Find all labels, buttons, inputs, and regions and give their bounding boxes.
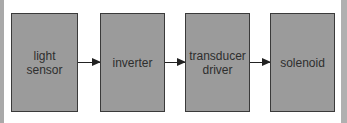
arrow-inverter-to-driver bbox=[165, 62, 185, 63]
block-transducer-driver: transducer driver bbox=[185, 13, 250, 112]
block-light-sensor: light sensor bbox=[11, 13, 78, 112]
block-solenoid: solenoid bbox=[270, 13, 335, 112]
block-label: solenoid bbox=[280, 56, 325, 70]
arrow-sensor-to-inverter bbox=[78, 62, 100, 63]
block-inverter: inverter bbox=[100, 13, 165, 112]
block-label: inverter bbox=[112, 56, 152, 70]
right-edge-strip bbox=[341, 0, 347, 123]
left-edge-strip bbox=[0, 0, 4, 123]
arrow-driver-to-solenoid bbox=[250, 62, 270, 63]
block-label: light sensor bbox=[26, 49, 62, 77]
block-label: transducer driver bbox=[189, 49, 246, 77]
